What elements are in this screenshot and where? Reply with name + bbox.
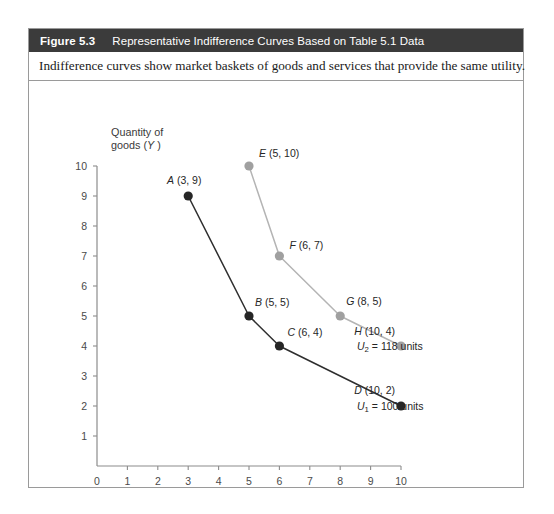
curve-U2 (249, 166, 401, 346)
x-tick-label-1: 1 (124, 475, 130, 487)
y-tick-label-7: 7 (81, 250, 87, 262)
figure-header-bar: Figure 5.3 Representative Indifference C… (29, 29, 523, 52)
curve-label-U2: U2 = 118 units (357, 340, 423, 354)
point-label-D: D (10, 2) (354, 384, 395, 396)
figure-title: Representative Indifference Curves Based… (112, 35, 424, 47)
x-tick-label-10: 10 (395, 475, 407, 487)
data-point-F[interactable] (275, 251, 284, 260)
y-tick-label-1: 1 (81, 430, 87, 442)
y-tick-label-8: 8 (81, 220, 87, 232)
x-tick-label-6: 6 (276, 475, 282, 487)
indifference-curve-chart: 12345678910012345678910Quantity ofgoods … (29, 81, 525, 488)
point-label-A: A (3, 9) (166, 174, 201, 186)
figure-number: Figure 5.3 (40, 35, 95, 47)
figure-caption-band: Indifference curves show market baskets … (29, 52, 523, 81)
curve-label-U1: U1 = 100 units (357, 400, 424, 414)
x-tick-label-3: 3 (185, 475, 191, 487)
y-tick-label-5: 5 (81, 310, 87, 322)
data-point-A[interactable] (184, 191, 193, 200)
y-tick-label-9: 9 (81, 190, 87, 202)
data-point-C[interactable] (275, 341, 284, 350)
y-tick-label-4: 4 (81, 340, 87, 352)
x-tick-label-9: 9 (368, 475, 374, 487)
figure-caption: Indifference curves show market baskets … (39, 58, 525, 74)
point-label-B: B (5, 5) (255, 296, 289, 308)
x-tick-label-0: 0 (94, 475, 100, 487)
y-tick-label-6: 6 (81, 280, 87, 292)
y-axis-title-line1: Quantity of (111, 126, 164, 138)
x-tick-label-5: 5 (246, 475, 252, 487)
chart-plot-area: 12345678910012345678910Quantity ofgoods … (29, 81, 525, 488)
y-tick-label-10: 10 (75, 160, 87, 172)
data-point-E[interactable] (244, 161, 253, 170)
x-tick-label-7: 7 (307, 475, 313, 487)
x-tick-label-8: 8 (337, 475, 343, 487)
x-tick-label-4: 4 (216, 475, 222, 487)
data-point-G[interactable] (336, 311, 345, 320)
point-label-F: F (6, 7) (289, 239, 323, 251)
y-tick-label-3: 3 (81, 370, 87, 382)
point-label-G: G (8, 5) (346, 295, 382, 307)
point-label-H: H (10, 4) (354, 325, 395, 337)
y-axis-title-line2: goods (Y ) (111, 139, 161, 151)
point-label-C: C (6, 4) (287, 326, 322, 338)
point-label-E: E (5, 10) (259, 147, 299, 159)
x-tick-label-2: 2 (155, 475, 161, 487)
figure-container: Figure 5.3 Representative Indifference C… (28, 28, 524, 488)
data-point-B[interactable] (244, 311, 253, 320)
y-tick-label-2: 2 (81, 400, 87, 412)
